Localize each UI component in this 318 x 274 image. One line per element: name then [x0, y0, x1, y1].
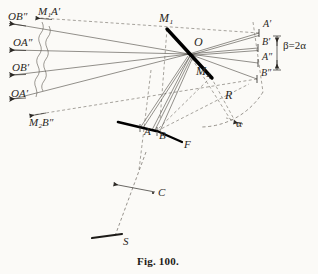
ray-o-to-b — [152, 56, 190, 130]
ray-oa-double-prime — [13, 50, 189, 54]
figure-caption: Fig. 100. — [137, 255, 179, 267]
line-m2-b-double-prime — [33, 79, 257, 115]
dashed-m2-down — [156, 77, 211, 131]
label-ob-double-prime: OB″ — [8, 11, 27, 22]
ray-o-to-a-2 — [143, 56, 190, 128]
label-o: O — [194, 36, 203, 48]
label-r: R — [225, 89, 232, 101]
label-oa-prime: OA′ — [11, 88, 28, 99]
dashed-m1-vertical — [160, 29, 167, 120]
label-a: A — [144, 126, 151, 137]
label-oa-double-prime: OA″ — [13, 37, 32, 48]
dashed-left-arrowheads — [29, 18, 52, 116]
break-line-2 — [42, 26, 51, 91]
label-alpha: α — [236, 118, 242, 129]
label-f: F — [184, 139, 191, 150]
ray-to-a-double-prime — [189, 54, 258, 63]
label-beta-equals-two-alpha: β=2α — [283, 40, 306, 51]
label-a-double-prime: A″ — [262, 52, 272, 62]
point-c — [152, 192, 154, 194]
arrow-ob-double-prime — [9, 24, 26, 27]
label-c: C — [158, 187, 165, 198]
arrow-ob-prime — [9, 75, 26, 76]
pivot-o — [188, 53, 191, 56]
beta-brace — [273, 36, 281, 70]
arrow-oa-double-prime — [9, 50, 26, 51]
ray-o-to-b-2 — [155, 56, 192, 130]
label-a-prime: A′ — [263, 19, 271, 29]
figure-container: OB″ M₁A′ OA″ OB′ OA′ M₂B″ M₁ O M₂ A′ B′ … — [0, 0, 318, 274]
crosshair-c-group — [113, 184, 155, 194]
label-m1: M₁ — [159, 12, 173, 24]
label-ob-prime: OB′ — [12, 62, 29, 73]
label-s: S — [123, 236, 129, 247]
label-m2-b-double-prime: M₂B″ — [29, 117, 53, 128]
dashed-a-vertical — [139, 70, 151, 170]
label-b: B — [159, 130, 166, 141]
label-b-double-prime: B″ — [261, 68, 271, 78]
label-b-prime: B′ — [262, 37, 270, 47]
support-stem — [115, 152, 146, 236]
ray-oa-prime — [13, 54, 189, 99]
support-stem-group — [115, 152, 146, 236]
ray-ob-double-prime — [14, 24, 189, 54]
base-bar-s — [92, 234, 122, 238]
break-line-group — [35, 22, 51, 97]
line-m1-a-prime — [40, 18, 259, 33]
label-m1-a-prime: M₁A′ — [38, 6, 60, 17]
label-m2: M₂ — [196, 65, 210, 77]
